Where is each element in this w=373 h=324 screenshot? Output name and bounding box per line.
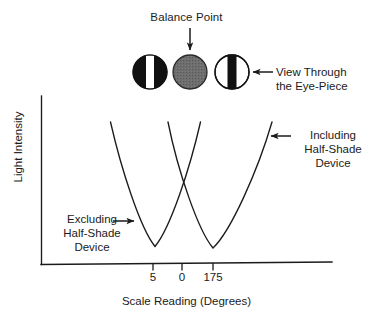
balance-point-annotation: Balance Point — [0, 10, 373, 24]
eyepiece-view-dark-field-with-light-stripe — [133, 55, 167, 89]
excluding-half-shade-callout-label: Excluding Half-Shade Device — [50, 212, 134, 254]
eyepiece-view-light-field-with-dark-stripe — [215, 55, 249, 89]
x-axis-line — [41, 262, 332, 265]
x-tick-label-0: 0 — [165, 271, 199, 283]
eyepiece-callout-label: View Through the Eye-Piece — [276, 65, 348, 93]
including-half-shade-callout-label: Including Half-Shade Device — [295, 128, 371, 170]
eyepiece-stripe-dark — [228, 56, 237, 89]
polarimeter-light-intensity-figure: Balance Point View Through the Eye-Piece… — [0, 0, 373, 324]
eyepiece-view-uniform-gray-balance-field — [173, 55, 207, 89]
x-tick-label-175: 175 — [196, 271, 230, 283]
y-axis-title: Light Intensity — [11, 92, 25, 202]
eyepiece-stripe-light — [146, 55, 154, 88]
x-axis-title: Scale Reading (Degrees) — [0, 294, 373, 308]
